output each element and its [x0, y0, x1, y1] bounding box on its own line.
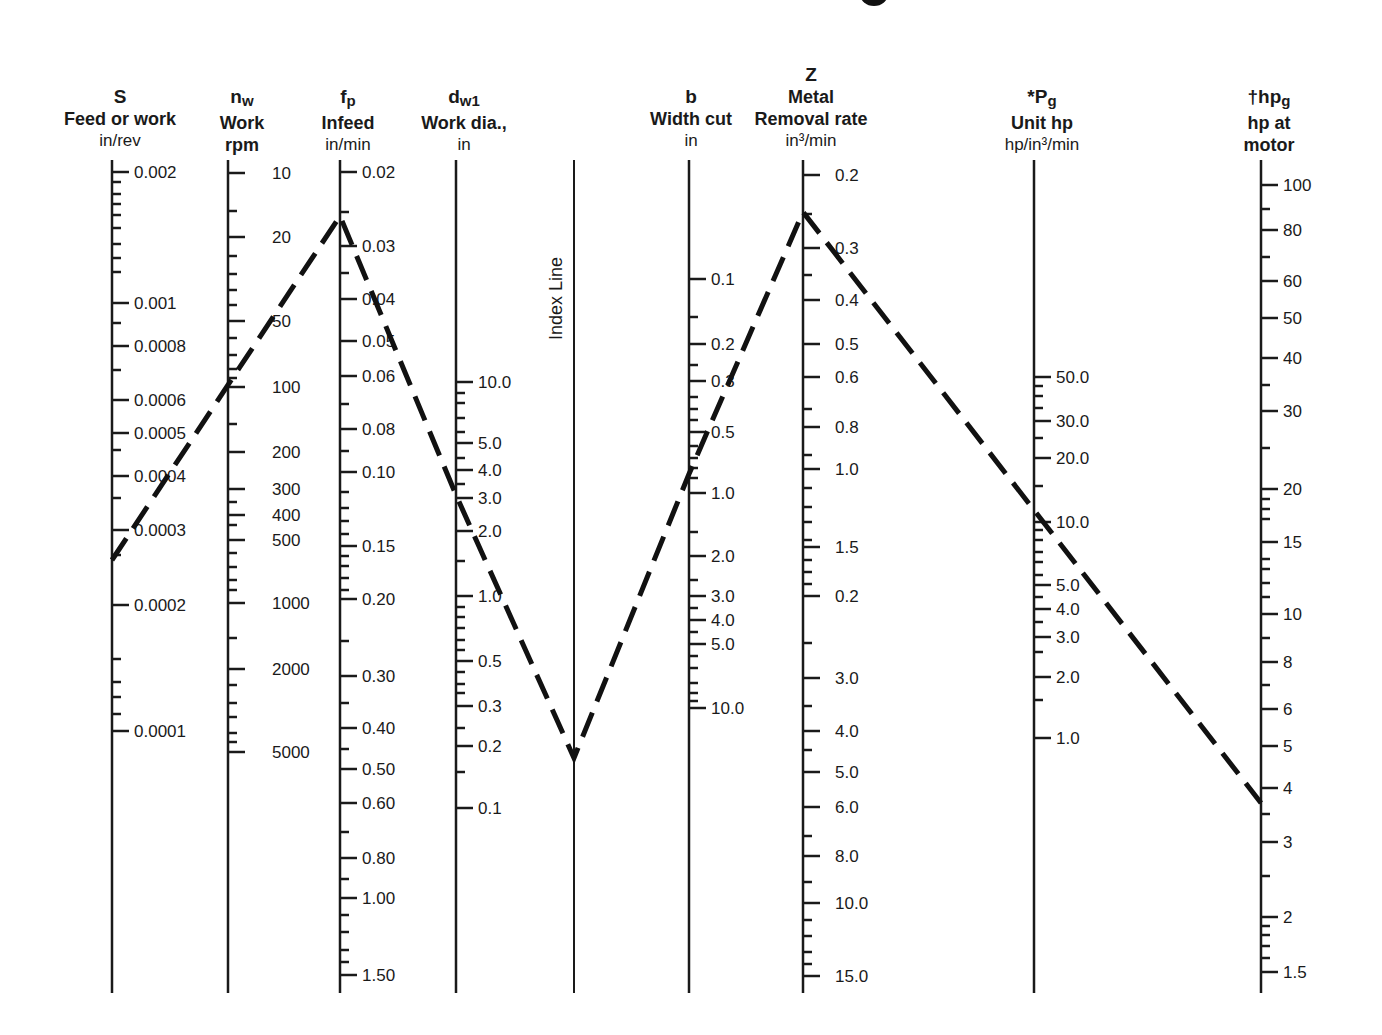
tick-label: 0.6 [835, 368, 859, 387]
tick-label: 8.0 [835, 847, 859, 866]
tick-label: 4.0 [1056, 600, 1080, 619]
scale-S: 0.0020.0010.00080.00060.00050.00040.0003… [112, 160, 186, 993]
tick-label: 1.50 [362, 966, 395, 985]
scale-name: Infeed [321, 112, 374, 134]
tick-label: 8 [1283, 653, 1292, 672]
tick-label: 0.03 [362, 237, 395, 256]
tick-label: 50.0 [1056, 368, 1089, 387]
scale-name: Metal [754, 86, 867, 108]
tick-label: 0.0001 [134, 722, 186, 741]
tick-label: 15 [1283, 533, 1302, 552]
tick-label: 3 [1283, 833, 1292, 852]
tick-label: 5.0 [1056, 576, 1080, 595]
scale-name: Work [220, 112, 265, 134]
scale-symbol: fp [321, 86, 374, 112]
tick-label: 1.5 [1283, 963, 1307, 982]
tick-label: 0.15 [362, 537, 395, 556]
scale-name: motor [1244, 134, 1295, 156]
scale-name: Feed or work [64, 108, 176, 130]
tick-label: 5 [1283, 737, 1292, 756]
tick-label: 10.0 [478, 373, 511, 392]
tick-label: 2.0 [1056, 668, 1080, 687]
scale-header-b: bWidth cutin [650, 86, 732, 152]
tick-label: 0.08 [362, 420, 395, 439]
tick-label: 0.2 [711, 335, 735, 354]
tick-label: 3.0 [1056, 628, 1080, 647]
tick-label: 2 [1283, 908, 1292, 927]
scale-unit: hp/in³/min [1005, 134, 1080, 156]
scale-fp: 0.020.030.040.050.060.080.100.150.200.30… [340, 160, 395, 993]
scale-header-Pg: *PgUnit hphp/in³/min [1005, 86, 1080, 156]
scale-unit: in/min [321, 134, 374, 156]
tick-label: 0.30 [362, 667, 395, 686]
tick-label: 0.2 [478, 737, 502, 756]
tick-label: 4.0 [835, 722, 859, 741]
tick-label: 0.50 [362, 760, 395, 779]
tick-label: 2.0 [478, 522, 502, 541]
tick-label: 1.0 [711, 484, 735, 503]
tick-label: 10.0 [835, 894, 868, 913]
tick-label: 0.60 [362, 794, 395, 813]
tick-label: 20 [272, 228, 291, 247]
scale-unit: in [421, 134, 507, 156]
tick-label: 50 [272, 312, 291, 331]
scale-b: 0.10.20.30.51.02.03.04.05.010.0 [689, 160, 744, 993]
tick-label: 0.02 [362, 163, 395, 182]
tick-label: 6.0 [835, 798, 859, 817]
tick-label: 20.0 [1056, 449, 1089, 468]
tick-label: 10.0 [1056, 513, 1089, 532]
scale-header-dw1: dw1Work dia.,in [421, 86, 507, 156]
scale-hpg: 10080605040302015108654321.5 [1261, 160, 1311, 993]
tick-label: 5.0 [835, 763, 859, 782]
tick-label: 500 [272, 531, 300, 550]
tick-label: 6 [1283, 700, 1292, 719]
tick-label: 0.5 [711, 423, 735, 442]
scale-name: Removal rate [754, 108, 867, 130]
tick-label: 0.3 [478, 697, 502, 716]
scale-nw: 102050100200300400500100020005000 [228, 160, 310, 993]
tick-label: 0.5 [835, 335, 859, 354]
scale-name: rpm [220, 134, 265, 156]
tick-label: 0.0005 [134, 424, 186, 443]
tick-label: 1.0 [835, 460, 859, 479]
tick-label: 200 [272, 443, 300, 462]
tick-label: 0.0006 [134, 391, 186, 410]
tick-label: 10 [272, 164, 291, 183]
scale-header-fp: fpInfeedin/min [321, 86, 374, 156]
tick-label: 2000 [272, 660, 310, 679]
tick-label: 80 [1283, 221, 1302, 240]
tick-label: 0.10 [362, 463, 395, 482]
scale-symbol: Z [754, 64, 867, 86]
tick-label: 0.002 [134, 163, 177, 182]
scale-unit: in [650, 130, 732, 152]
tick-label: 10 [1283, 605, 1302, 624]
tick-label: 0.1 [711, 270, 735, 289]
tick-label: 0.001 [134, 294, 177, 313]
scale-unit: in³/min [754, 130, 867, 152]
tick-label: 4 [1283, 779, 1292, 798]
tick-label: 10.0 [711, 699, 744, 718]
index-line-label: Index Line [546, 257, 567, 340]
tick-label: 5.0 [711, 635, 735, 654]
tick-label: 3.0 [478, 489, 502, 508]
scale-symbol: nw [220, 86, 265, 112]
tick-label: 4.0 [478, 461, 502, 480]
tick-label: 0.5 [478, 652, 502, 671]
tick-label: 0.0002 [134, 596, 186, 615]
tick-label: 0.1 [478, 799, 502, 818]
scale-symbol: b [650, 86, 732, 108]
tick-label: 1.5 [835, 538, 859, 557]
tick-label: 5.0 [478, 434, 502, 453]
nomogram-plot: 0.0020.0010.00080.00060.00050.00040.0003… [0, 0, 1382, 1035]
tick-label: 60 [1283, 272, 1302, 291]
tick-label: 0.2 [835, 166, 859, 185]
tick-label: 2.0 [711, 547, 735, 566]
nomogram: SFeed or workin/revnwWorkrpmfpInfeedin/m… [0, 0, 1382, 1035]
scale-symbol: dw1 [421, 86, 507, 112]
tick-label: 100 [1283, 176, 1311, 195]
tick-label: 0.06 [362, 367, 395, 386]
tick-label: 20 [1283, 480, 1302, 499]
scale-header-Z: ZMetalRemoval ratein³/min [754, 64, 867, 152]
tick-label: 0.0003 [134, 521, 186, 540]
tick-label: 3.0 [835, 669, 859, 688]
